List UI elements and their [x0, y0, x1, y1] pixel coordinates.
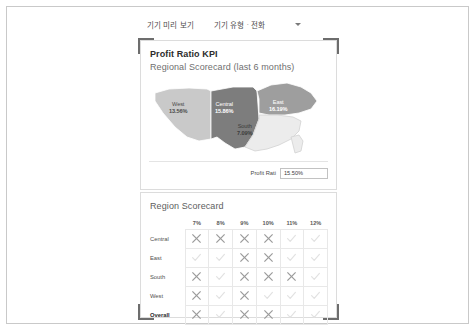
- scorecard-cell[interactable]: [256, 249, 280, 268]
- scorecard-cell[interactable]: [304, 306, 328, 325]
- scorecard-column-header: 7%: [185, 219, 209, 230]
- scorecard-row: West: [149, 287, 328, 306]
- scorecard-cell[interactable]: [209, 287, 233, 306]
- scorecard-cell[interactable]: [280, 306, 304, 325]
- scorecard-table: 7% 8% 9% 10% 11% 12% CentralEastSouthWes…: [149, 219, 328, 325]
- scorecard-header-row: 7% 8% 9% 10% 11% 12%: [149, 219, 328, 230]
- scorecard-row: Overall: [149, 306, 328, 325]
- scorecard-row-label: Central: [149, 230, 185, 249]
- mark-check-icon: [310, 252, 321, 263]
- map-label-central: Central 15.86%: [215, 101, 233, 115]
- scorecard-row-label: West: [149, 287, 185, 306]
- mark-check-icon: [215, 252, 226, 263]
- device-preview-button[interactable]: 기기 미리 보기: [147, 19, 194, 30]
- map-label-east: East 16.19%: [269, 99, 287, 113]
- scorecard-column-header: 8%: [209, 219, 233, 230]
- mark-x-icon: [239, 290, 250, 301]
- app-window: 기기 미리 보기 기기 유형 · 전화 Profit Ratio KPI Reg…: [6, 6, 469, 324]
- map-label-west-value: 13.56%: [169, 108, 187, 115]
- scorecard-cell[interactable]: [233, 230, 257, 249]
- scorecard-cell[interactable]: [304, 287, 328, 306]
- scorecard-cell[interactable]: [280, 249, 304, 268]
- map-label-west-name: West: [169, 101, 187, 108]
- scorecard-cell[interactable]: [185, 287, 209, 306]
- scorecard-cell[interactable]: [185, 268, 209, 287]
- mark-check-icon: [191, 252, 202, 263]
- mark-x-icon: [263, 271, 274, 282]
- mark-x-icon: [263, 233, 274, 244]
- scorecard-cell[interactable]: [256, 268, 280, 287]
- chevron-down-icon[interactable]: [295, 23, 301, 26]
- mark-x-icon: [239, 271, 250, 282]
- scorecard-cell[interactable]: [304, 230, 328, 249]
- map-label-south-value: 7.09%: [237, 130, 252, 137]
- dashboard: Profit Ratio KPI Regional Scorecard (las…: [140, 40, 337, 318]
- scorecard-cell[interactable]: [233, 287, 257, 306]
- scorecard-column-header: 12%: [304, 219, 328, 230]
- kpi-panel: Profit Ratio KPI Regional Scorecard (las…: [140, 40, 337, 190]
- scorecard-cell[interactable]: [209, 230, 233, 249]
- scorecard-column-header: 11%: [280, 219, 304, 230]
- mark-check-icon: [310, 233, 321, 244]
- mark-check-icon: [310, 290, 321, 301]
- scorecard-cell[interactable]: [256, 230, 280, 249]
- mark-check-icon: [263, 290, 274, 301]
- map-label-west: West 13.56%: [169, 101, 187, 115]
- scorecard-cell[interactable]: [209, 306, 233, 325]
- scorecard-row-label: East: [149, 249, 185, 268]
- mark-check-icon: [286, 233, 297, 244]
- map-label-central-value: 15.86%: [215, 108, 233, 115]
- map-label-south-name: South: [237, 123, 252, 130]
- scorecard-cell[interactable]: [280, 268, 304, 287]
- device-type-separator: ·: [247, 20, 250, 29]
- mark-x-icon: [191, 309, 202, 320]
- scorecard-cell[interactable]: [185, 249, 209, 268]
- profit-ratio-value: 15.50%: [281, 170, 303, 176]
- mark-x-icon: [191, 233, 202, 244]
- mark-check-icon: [286, 309, 297, 320]
- scorecard-cell[interactable]: [233, 306, 257, 325]
- kpi-title: Profit Ratio KPI: [150, 49, 218, 59]
- scorecard-row-label: South: [149, 268, 185, 287]
- us-choropleth-map[interactable]: West 13.56% Central 15.86% East 16.19% S…: [149, 79, 330, 157]
- scorecard-column-header: 10%: [256, 219, 280, 230]
- scorecard-cell[interactable]: [256, 306, 280, 325]
- scorecard-cell[interactable]: [304, 268, 328, 287]
- scorecard-column-header: 9%: [233, 219, 257, 230]
- scorecard-cell[interactable]: [209, 268, 233, 287]
- profit-ratio-input[interactable]: 15.50%: [280, 168, 328, 179]
- mark-x-icon: [263, 309, 274, 320]
- device-type-label: 기기 유형: [214, 19, 245, 30]
- scorecard-cell[interactable]: [185, 230, 209, 249]
- mark-check-icon: [286, 252, 297, 263]
- mark-x-icon: [239, 309, 250, 320]
- scorecard-cell[interactable]: [233, 268, 257, 287]
- map-region-florida: [291, 135, 303, 153]
- scorecard-title: Region Scorecard: [150, 201, 224, 211]
- scorecard-cell[interactable]: [209, 249, 233, 268]
- mark-x-icon: [191, 290, 202, 301]
- mark-x-icon: [263, 252, 274, 263]
- mark-x-icon: [239, 252, 250, 263]
- mark-check-icon: [215, 309, 226, 320]
- scorecard-cell[interactable]: [304, 249, 328, 268]
- mark-x-icon: [286, 271, 297, 282]
- map-svg: [149, 79, 330, 157]
- mark-x-icon: [191, 271, 202, 282]
- scorecard-row-label: Overall: [149, 306, 185, 325]
- mark-check-icon: [310, 309, 321, 320]
- scorecard-row: Central: [149, 230, 328, 249]
- map-label-central-name: Central: [215, 101, 233, 108]
- scorecard-cell[interactable]: [233, 249, 257, 268]
- scorecard-row: South: [149, 268, 328, 287]
- scorecard-cell[interactable]: [256, 287, 280, 306]
- scorecard-cell[interactable]: [185, 306, 209, 325]
- scorecard-cell[interactable]: [280, 230, 304, 249]
- mark-check-icon: [215, 271, 226, 282]
- scorecard-row: East: [149, 249, 328, 268]
- scorecard-cell[interactable]: [280, 287, 304, 306]
- mark-check-icon: [286, 290, 297, 301]
- device-type-value[interactable]: 전화: [251, 19, 265, 30]
- profit-ratio-control: Profit Rati 15.50%: [149, 161, 328, 184]
- mark-check-icon: [310, 271, 321, 282]
